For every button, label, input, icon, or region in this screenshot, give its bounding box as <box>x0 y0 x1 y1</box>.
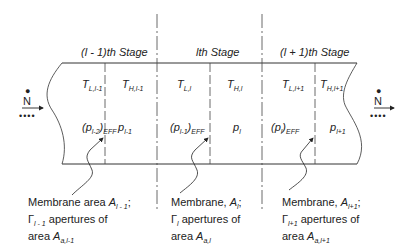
leader-arrow-2 <box>180 138 208 193</box>
pressure-l: pl <box>233 121 241 135</box>
leader-arrow-1 <box>72 138 103 195</box>
temp-low-l: TL,l <box>177 78 191 92</box>
left-break-line <box>47 63 64 164</box>
right-break-line <box>343 63 361 164</box>
pressure-eff-l: (pl)EFF <box>271 121 299 135</box>
flow-right-label: N <box>374 95 382 107</box>
stage-label-text: - 1)th Stage <box>87 46 148 58</box>
pressure-l+1: pl+1 <box>330 121 346 135</box>
stage-label-current: lth Stage <box>196 46 239 58</box>
stage-label-text: + 1)th Stage <box>286 46 349 58</box>
temp-high-l-1: TH,l-1 <box>122 78 144 92</box>
pressure-eff-l-1: (pl-1)EFF <box>170 121 204 135</box>
temp-low-l-1: TL,l-1 <box>82 78 102 92</box>
pressure-l-1: pl-1 <box>118 121 132 135</box>
temp-low-l+1: TL,l+1 <box>282 78 304 92</box>
membrane-caption-l+1: Membrane, Al+1; Γl+1 apertures of area A… <box>282 196 361 244</box>
temp-high-l: TH,l <box>227 78 242 92</box>
flow-left-label: N <box>23 95 31 107</box>
temp-high-l+1: TH,l+1 <box>320 78 343 92</box>
stage-label-next: (l + 1)th Stage <box>280 46 349 58</box>
membrane-caption-l-1: Membrane area Al - 1; Γl - 1 apertures o… <box>28 196 131 244</box>
flow-right-dots: •••• <box>370 111 387 121</box>
flow-left-dots: •••• <box>19 111 36 121</box>
pressure-eff-l-2: (pl-2)EFF <box>82 121 116 135</box>
membrane-caption-l: Membrane, Al; Γl apertures of area Aa,l <box>171 196 242 244</box>
stage-label-prev: (l - 1)th Stage <box>81 46 148 58</box>
stage-label-text: th Stage <box>198 46 239 58</box>
